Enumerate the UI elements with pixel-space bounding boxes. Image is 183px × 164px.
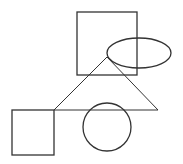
triangle (54, 57, 158, 110)
diagram-canvas (0, 0, 183, 164)
top-square (77, 12, 137, 75)
bottom-left-square (12, 110, 54, 155)
ellipse (107, 38, 171, 68)
